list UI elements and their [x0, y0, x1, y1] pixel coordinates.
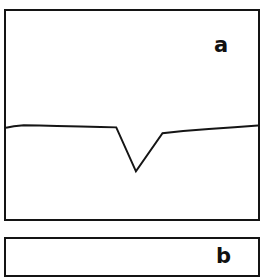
panel-label-a: a [214, 35, 228, 56]
chart-panel-a: a [4, 9, 260, 221]
trace-a-line [6, 125, 258, 171]
panel-label-b: b [216, 246, 231, 267]
